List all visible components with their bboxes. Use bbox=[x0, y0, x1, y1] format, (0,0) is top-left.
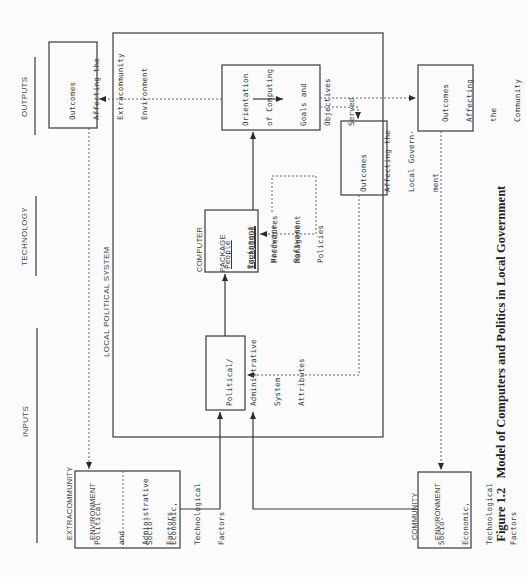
text-line: Factors bbox=[510, 483, 518, 545]
text-line: Outcomes bbox=[69, 53, 77, 120]
goals-text: Goals and Objectives Served bbox=[284, 78, 364, 126]
text-line: Economic, bbox=[462, 483, 470, 545]
extracommunity-socio-text: Socio- Economic, Technological Factors bbox=[130, 483, 234, 545]
caption-spacer bbox=[494, 478, 508, 487]
technique-label: Technique bbox=[248, 215, 256, 269]
text-line: Attributes bbox=[298, 339, 306, 406]
text-line: Outcomes bbox=[360, 130, 368, 192]
text-line: of Computing bbox=[266, 69, 274, 126]
figure-number: Figure 1.2 bbox=[494, 488, 508, 542]
text-line: EXTRACOMMUNITY bbox=[66, 466, 74, 540]
inputs-column-label: INPUTS bbox=[22, 406, 30, 437]
text-line: Goals and bbox=[300, 78, 308, 126]
text-line: Political bbox=[94, 478, 102, 545]
procedures-label: Procedures bbox=[271, 215, 279, 269]
figure-title: Model of Computers and Politics in Local… bbox=[494, 186, 508, 479]
text-line: Extracommunity bbox=[117, 53, 125, 120]
figure-caption: Figure 1.2 Model of Computers and Politi… bbox=[482, 186, 508, 548]
text-line: Affecting the bbox=[384, 130, 392, 192]
text-line: Community bbox=[514, 79, 522, 122]
text-line: Political/ bbox=[226, 339, 234, 406]
text-line: ment bbox=[432, 130, 440, 192]
computer-package-technique: Technique Procedures Management Policies bbox=[233, 215, 332, 269]
local-political-system-label: LOCAL POLITICAL SYSTEM bbox=[103, 247, 111, 357]
text-line: System bbox=[274, 339, 282, 406]
text-line: the bbox=[490, 79, 498, 122]
text-line: Local Govern- bbox=[408, 130, 416, 192]
policies-label: Policies bbox=[317, 215, 325, 269]
community-outcomes-text: Outcomes Affecting the Community bbox=[426, 79, 527, 122]
text-line: and bbox=[118, 478, 126, 545]
technology-column-label: TECHNOLOGY bbox=[21, 207, 29, 266]
text-line: Environment bbox=[141, 53, 149, 120]
text-line: Served bbox=[348, 78, 356, 126]
text-line: Outcomes bbox=[442, 79, 450, 122]
text-line: Orientation bbox=[242, 69, 250, 126]
text-line: Administrative bbox=[250, 339, 258, 406]
text-line: Socio- bbox=[146, 483, 154, 545]
text-line: COMMUNITY bbox=[411, 483, 419, 540]
management-label: Management bbox=[294, 215, 302, 269]
text-line: Socio- bbox=[438, 483, 446, 545]
people-label: People bbox=[224, 225, 232, 269]
text-line: Technological bbox=[194, 483, 202, 545]
outputs-column-label: OUTPUTS bbox=[21, 77, 29, 117]
text-line: COMPUTER bbox=[196, 227, 204, 272]
orientation-text: Orientation of Computing bbox=[226, 69, 282, 126]
text-line: Economic, bbox=[170, 483, 178, 545]
text-line: Affecting bbox=[466, 79, 474, 122]
community-socio-text: Socio- Economic, Technological Factors bbox=[422, 483, 526, 545]
text-line: Affecting the bbox=[93, 53, 101, 120]
political-admin-text: Political/ Administrative System Attribu… bbox=[210, 339, 314, 406]
text-line: Factors bbox=[218, 483, 226, 545]
text-line: Objectives bbox=[324, 78, 332, 126]
extracommunity-outcomes-text: Outcomes Affecting the Extracommunity En… bbox=[53, 53, 157, 120]
local-gov-outcomes-text: Outcomes Affecting the Local Govern- men… bbox=[344, 130, 448, 192]
